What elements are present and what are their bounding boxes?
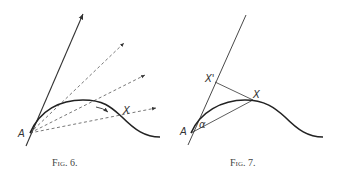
caption-fig-6: Fig. 6.: [52, 157, 77, 168]
curve: [191, 100, 323, 137]
curve: [30, 100, 160, 137]
label-x: X: [122, 105, 131, 116]
perpendicular-x-to-tangent: [215, 82, 253, 100]
label-x-prime: X': [204, 73, 215, 84]
label-a: A: [179, 126, 187, 137]
tangent-line: [188, 15, 246, 145]
figure-7: A α X' X Fig. 7.: [179, 15, 323, 168]
secant-ray-2: [30, 75, 145, 133]
label-a: A: [17, 128, 25, 139]
caption-fig-7: Fig. 7.: [230, 157, 255, 168]
diagram-canvas: A X Fig. 6. A α X' X Fig. 7.: [0, 0, 339, 177]
tangent-line: [26, 14, 83, 146]
label-alpha: α: [199, 119, 206, 130]
figure-6: A X Fig. 6.: [17, 14, 160, 168]
motion-arrow: [96, 107, 108, 112]
secant-ray-1: [30, 43, 124, 133]
label-x: X: [252, 89, 261, 100]
